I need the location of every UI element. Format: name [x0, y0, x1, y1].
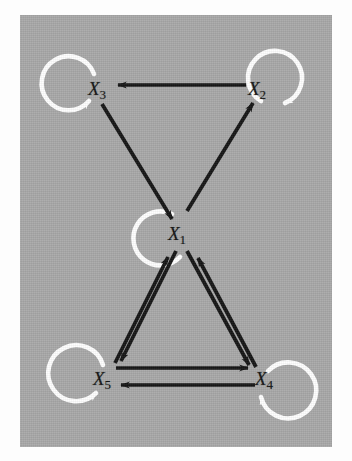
node-base-x3: X: [88, 78, 100, 99]
node-label-x5[interactable]: X5: [93, 369, 111, 391]
node-base-x5: X: [93, 368, 105, 389]
node-subscript-x4: 4: [267, 377, 274, 392]
figure-root: X3 X2 X1 X5 X4: [0, 0, 352, 461]
edge-x5-x1[interactable]: [115, 257, 168, 363]
self-loop-x3[interactable]: [42, 56, 94, 110]
node-label-x1[interactable]: X1: [168, 224, 186, 246]
edge-x1-x5[interactable]: [121, 251, 176, 361]
edge-x3-x1[interactable]: [102, 104, 172, 219]
graph-panel: X3 X2 X1 X5 X4: [20, 15, 332, 447]
node-base-x2: X: [248, 78, 260, 99]
node-label-x2[interactable]: X2: [248, 79, 266, 101]
node-base-x4: X: [255, 368, 267, 389]
edge-x1-x2[interactable]: [187, 103, 253, 211]
edge-x4-x1[interactable]: [198, 258, 256, 367]
node-subscript-x5: 5: [105, 377, 112, 392]
node-subscript-x1: 1: [180, 232, 187, 247]
node-label-x3[interactable]: X3: [88, 79, 106, 101]
node-base-x1: X: [168, 223, 180, 244]
node-label-x4[interactable]: X4: [255, 369, 273, 391]
edge-x1-x4[interactable]: [187, 251, 249, 365]
node-subscript-x3: 3: [100, 87, 107, 102]
node-subscript-x2: 2: [260, 87, 267, 102]
